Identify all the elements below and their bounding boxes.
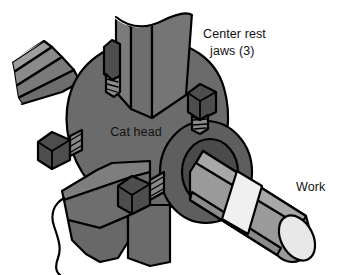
label-center-rest-jaws-line1: Center rest: [203, 27, 266, 41]
jaw-top-front-face: [131, 17, 152, 118]
label-work: Work: [296, 180, 326, 194]
adjusting-screw-right-head: [188, 84, 216, 120]
jaw-lower-left-tail: [128, 205, 170, 266]
label-cat-head: Cat head: [110, 125, 162, 139]
cat-head-figure: Center rest jaws (3) Cat head Work: [0, 0, 342, 275]
adjusting-screw-bottom-head: [118, 176, 150, 214]
technical-illustration: Center rest jaws (3) Cat head Work: [0, 0, 342, 275]
adjusting-screw-top: [104, 40, 120, 97]
label-center-rest-jaws-line2: jaws (3): [209, 44, 255, 58]
